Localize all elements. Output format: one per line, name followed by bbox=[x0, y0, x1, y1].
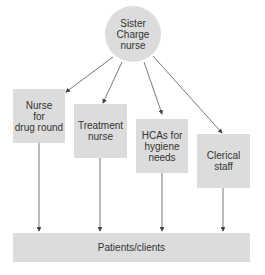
treatment-nurse-node: Treatment nurse bbox=[74, 104, 127, 158]
hca-hygiene-node: HCAs for hygiene needs bbox=[136, 119, 188, 173]
sister-charge-nurse-node: Sister Charge nurse bbox=[105, 6, 161, 62]
clerical-staff-node: Clerical staff bbox=[197, 134, 250, 188]
nurse-drug-round-node: Nurse for drug round bbox=[13, 89, 65, 143]
patients-clients-node: Patients/clients bbox=[13, 233, 250, 262]
